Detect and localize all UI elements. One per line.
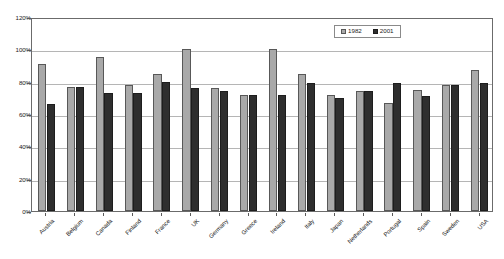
bar-sweden-1982: [442, 85, 450, 211]
bar-portugal-1982: [384, 103, 392, 211]
x-axis-tick-mark: [74, 213, 75, 216]
bar-belgium-2001: [76, 87, 84, 211]
bar-uk-1982: [182, 49, 190, 211]
x-axis-label-finland: Finland: [115, 218, 142, 245]
bar-ireland-2001: [278, 95, 286, 211]
x-axis-label-france: France: [144, 218, 171, 245]
x-axis-label-netherlands: Netherlands: [346, 218, 373, 245]
bar-ireland-1982: [269, 49, 277, 211]
bar-italy-2001: [307, 83, 315, 211]
x-axis-tick-mark: [450, 213, 451, 216]
x-axis-label-italy: Italy: [289, 218, 316, 245]
bar-usa-2001: [480, 83, 488, 211]
legend-entry-1982: 1982: [341, 28, 362, 34]
bar-greece-2001: [249, 95, 257, 211]
bar-uk-2001: [191, 88, 199, 211]
bar-sweden-2001: [451, 85, 459, 211]
x-axis-tick-mark: [479, 213, 480, 216]
legend: 1982 2001: [334, 25, 401, 38]
x-axis-label-germany: Germany: [202, 218, 229, 245]
x-axis-tick-mark: [363, 213, 364, 216]
x-axis-label-uk: UK: [173, 218, 200, 245]
x-axis-tick-mark: [421, 213, 422, 216]
x-axis-tick-mark: [392, 213, 393, 216]
x-axis-label-sweden: Sweden: [433, 218, 460, 245]
x-axis-tick-mark: [161, 213, 162, 216]
bar-canada-1982: [96, 57, 104, 211]
x-axis-label-belgium: Belgium: [58, 218, 85, 245]
x-axis-label-austria: Austria: [29, 218, 56, 245]
x-axis-label-spain: Spain: [404, 218, 431, 245]
series-2001-swatch-icon: [373, 29, 378, 34]
x-axis-tick-mark: [219, 213, 220, 216]
x-axis-tick-mark: [276, 213, 277, 216]
bar-usa-1982: [471, 70, 479, 211]
bar-portugal-2001: [393, 83, 401, 211]
bar-italy-1982: [298, 74, 306, 211]
bar-japan-2001: [335, 98, 343, 211]
bar-germany-1982: [211, 88, 219, 211]
legend-label-2001: 2001: [380, 28, 394, 34]
legend-label-1982: 1982: [348, 28, 362, 34]
x-axis: AustriaBelgiumCanadaFinlandFranceUKGerma…: [0, 213, 504, 259]
bar-austria-1982: [38, 64, 46, 211]
bars-layer: [32, 19, 492, 211]
x-axis-label-usa: USA: [462, 218, 489, 245]
x-axis-label-canada: Canada: [87, 218, 114, 245]
x-axis-label-portugal: Portugal: [375, 218, 402, 245]
bar-austria-2001: [47, 104, 55, 211]
bar-france-1982: [153, 74, 161, 211]
bar-finland-2001: [133, 93, 141, 211]
x-axis-label-japan: Japan: [318, 218, 345, 245]
bar-belgium-1982: [67, 87, 75, 211]
bar-canada-2001: [104, 93, 112, 211]
bar-netherlands-2001: [364, 91, 372, 211]
bar-france-2001: [162, 82, 170, 211]
bar-chart: 0%20%40%60%80%100%120% AustriaBelgiumCan…: [0, 0, 504, 259]
x-axis-tick-mark: [305, 213, 306, 216]
x-axis-tick-mark: [132, 213, 133, 216]
x-axis-tick-mark: [190, 213, 191, 216]
bar-spain-2001: [422, 96, 430, 211]
bar-finland-1982: [125, 85, 133, 211]
x-axis-label-greece: Greece: [231, 218, 258, 245]
bar-germany-2001: [220, 91, 228, 211]
plot-area: [31, 18, 493, 212]
x-axis-label-ireland: Ireland: [260, 218, 287, 245]
x-axis-tick-mark: [103, 213, 104, 216]
bar-spain-1982: [413, 90, 421, 211]
bar-greece-1982: [240, 95, 248, 211]
bar-netherlands-1982: [356, 91, 364, 211]
legend-entry-2001: 2001: [373, 28, 394, 34]
series-1982-swatch-icon: [341, 29, 346, 34]
bar-japan-1982: [327, 95, 335, 211]
x-axis-tick-mark: [334, 213, 335, 216]
x-axis-tick-mark: [45, 213, 46, 216]
x-axis-tick-mark: [248, 213, 249, 216]
